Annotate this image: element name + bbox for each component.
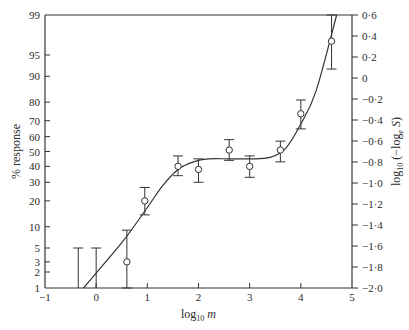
- x-axis-title: log10 m: [181, 307, 216, 323]
- x-tick-label: −1: [39, 291, 51, 303]
- y-right-tick-label: 0: [362, 72, 368, 84]
- data-point: [124, 259, 130, 265]
- y-left-tick-label: 50: [29, 146, 41, 158]
- x-tick-label: 3: [247, 291, 253, 303]
- y-left-tick-label: 95: [29, 49, 41, 61]
- y-left-tick-label: 80: [29, 96, 41, 108]
- y-left-axis-title: % response: [9, 124, 23, 179]
- y-left-tick-label: 99: [29, 9, 41, 21]
- y-right-tick-label: −1·0: [362, 177, 383, 189]
- x-tick-label: 0: [93, 291, 99, 303]
- data-point: [328, 38, 334, 44]
- y-right-tick-label: −0·6: [362, 135, 383, 147]
- data-point: [298, 111, 304, 117]
- data-point: [226, 147, 232, 153]
- data-point: [277, 147, 283, 153]
- x-tick-label: 4: [298, 291, 304, 303]
- y-left-tick-label: 70: [29, 115, 41, 127]
- y-right-tick-label: 0·4: [362, 30, 377, 42]
- y-right-tick-label: −0·4: [362, 114, 383, 126]
- y-right-tick-label: −1·4: [362, 219, 383, 231]
- x-tick-label: 1: [145, 291, 151, 303]
- data-point: [142, 198, 148, 204]
- data-point: [246, 163, 252, 169]
- y-left-tick-label: 90: [29, 70, 41, 82]
- y-left-tick-label: 60: [29, 131, 41, 143]
- fitted-curve: [83, 15, 336, 288]
- y-left-tick-label: 3: [35, 256, 41, 268]
- y-right-axis-title: log10 (−loge S): [389, 117, 405, 186]
- y-right-tick-label: −1·2: [362, 198, 383, 210]
- x-tick-label: 5: [349, 291, 355, 303]
- y-right-tick-label: −2·0: [362, 282, 383, 294]
- data-point: [195, 166, 201, 172]
- y-left-tick-label: 1: [35, 282, 41, 294]
- y-left-tick-label: 10: [29, 221, 41, 233]
- y-right-tick-label: 0·2: [362, 51, 377, 63]
- data-point: [175, 163, 181, 169]
- y-right-tick-label: 0·6: [362, 9, 377, 21]
- y-left-tick-label: 40: [29, 160, 41, 172]
- y-right-tick-label: −1·8: [362, 261, 383, 273]
- chart: −1012345123510203040506070809095990·60·4…: [0, 0, 409, 330]
- y-right-tick-label: −0·2: [362, 93, 383, 105]
- y-left-tick-label: 5: [35, 242, 41, 254]
- x-tick-label: 2: [196, 291, 202, 303]
- y-left-tick-label: 20: [29, 195, 41, 207]
- y-right-tick-label: −1·6: [362, 240, 383, 252]
- y-right-tick-label: −0·8: [362, 156, 383, 168]
- y-left-tick-label: 30: [29, 176, 41, 188]
